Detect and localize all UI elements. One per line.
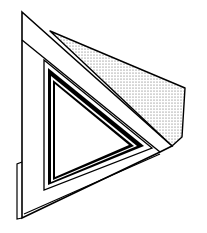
triangle-frame-illustration (0, 0, 207, 233)
illustration-canvas: Triangular frame line illustration (0, 0, 207, 233)
